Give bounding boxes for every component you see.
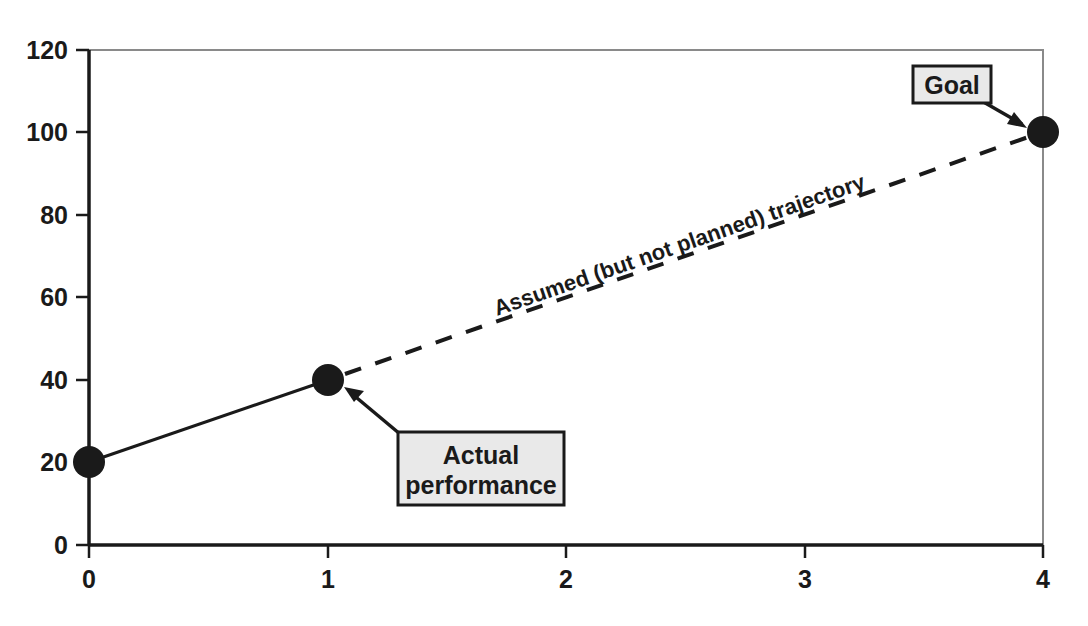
y-tick-label-0: 0: [54, 531, 68, 559]
actual-performance-leader-line: [351, 393, 400, 434]
series-actual-performance-line: [89, 380, 328, 462]
y-tick-label-120: 120: [26, 36, 68, 64]
annotation-actual-performance: Actual performance: [344, 387, 564, 505]
data-point-0-20: [73, 446, 105, 478]
y-tick-label-100: 100: [26, 118, 68, 146]
annotation-trajectory-label: Assumed (but not planned) trajectory: [490, 169, 869, 321]
goal-label-text: Goal: [924, 71, 980, 99]
data-point-4-100: [1027, 116, 1059, 148]
data-point-1-40: [312, 364, 344, 396]
y-tick-label-40: 40: [40, 366, 68, 394]
goal-arrowhead-icon: [1007, 112, 1027, 128]
y-tick-label-80: 80: [40, 201, 68, 229]
x-tick-label-4: 4: [1036, 565, 1050, 593]
y-tick-label-60: 60: [40, 283, 68, 311]
y-tick-label-20: 20: [40, 448, 68, 476]
x-axis-tick-labels: 0 1 2 3 4: [82, 565, 1050, 593]
line-chart-plot: 120 100 80 60 40 20 0 0 1 2 3 4: [0, 0, 1088, 626]
actual-performance-label-line1: Actual: [443, 441, 519, 469]
y-axis-tick-labels: 120 100 80 60 40 20 0: [26, 36, 68, 559]
x-tick-label-1: 1: [321, 565, 335, 593]
x-axis-ticks: [89, 545, 1043, 558]
x-tick-label-3: 3: [798, 565, 812, 593]
annotation-goal: Goal: [913, 66, 1027, 128]
x-tick-label-0: 0: [82, 565, 96, 593]
actual-performance-label-line2: performance: [405, 471, 557, 499]
chart-container: 120 100 80 60 40 20 0 0 1 2 3 4: [0, 0, 1088, 626]
x-tick-label-2: 2: [559, 565, 573, 593]
